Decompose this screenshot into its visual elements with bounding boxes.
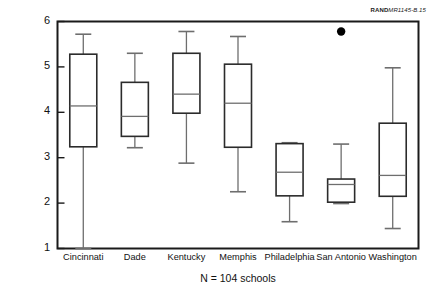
box-plot-group	[225, 36, 252, 191]
box-plot-figure: RANDMR1145-B.15 Student grouping is flui…	[0, 0, 436, 298]
box-iqr	[379, 123, 406, 196]
y-axis-tick-label: 6	[34, 14, 50, 26]
y-axis-tick-label: 3	[34, 150, 50, 162]
y-axis-tick-label: 1	[34, 241, 50, 253]
y-axis-tick-label: 4	[34, 104, 50, 116]
x-axis-title: N = 104 schools	[57, 272, 419, 284]
box-plot-group	[379, 68, 406, 229]
box-iqr	[121, 82, 148, 136]
box-iqr	[173, 53, 200, 113]
outlier-point	[337, 27, 345, 35]
y-axis-tick-label: 2	[34, 195, 50, 207]
box-iqr	[70, 54, 97, 147]
box-iqr	[328, 179, 355, 202]
box-plot-group	[121, 53, 148, 147]
box-plot-group	[173, 31, 200, 163]
box-iqr	[276, 144, 303, 196]
x-axis-category-label: Washington	[353, 252, 433, 262]
box-iqr	[225, 64, 252, 147]
box-plot-group	[70, 34, 97, 248]
y-axis-tick-label: 5	[34, 59, 50, 71]
box-plot-group	[276, 143, 303, 222]
box-plot-group	[328, 27, 355, 203]
